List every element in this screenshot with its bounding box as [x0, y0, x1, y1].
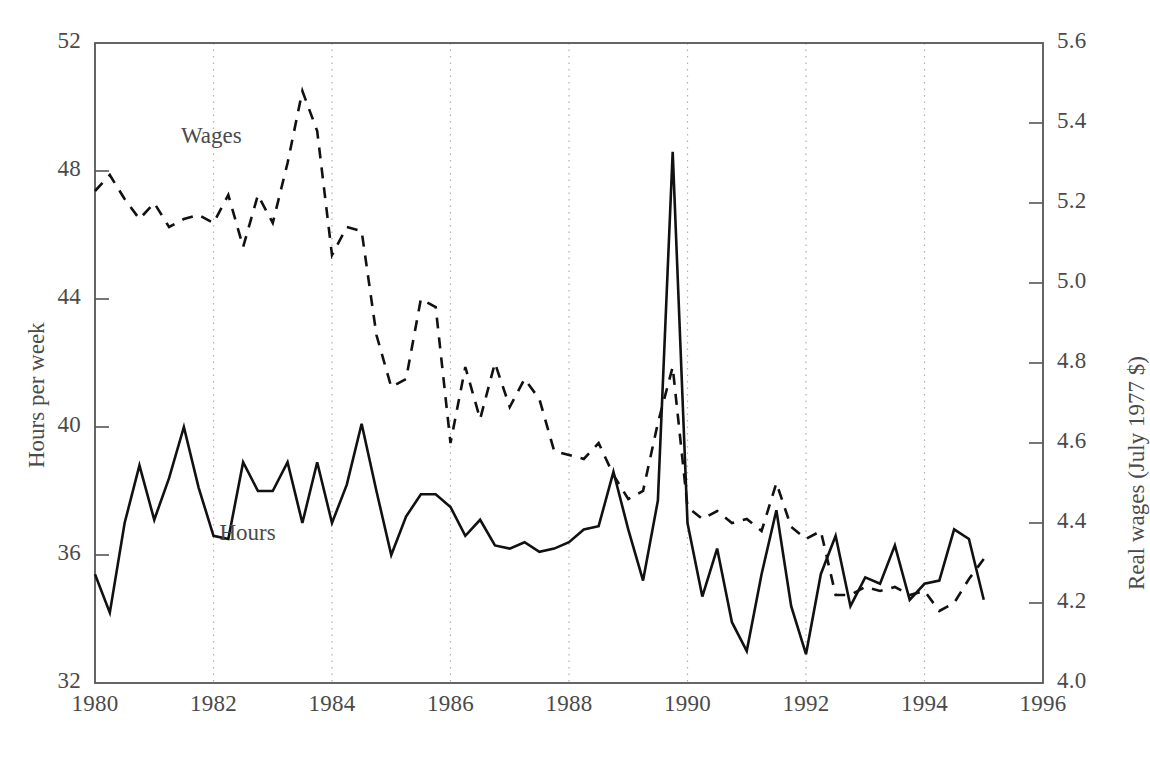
y-axis-title-right: Real wages (July 1977 $) [1124, 356, 1150, 590]
y-axis-tick-label-left: 36 [57, 540, 81, 566]
y-axis-tick-label-right: 5.6 [1057, 28, 1087, 54]
y-axis-tick-label-left: 40 [57, 412, 81, 438]
series-annotation-wages: Wages [181, 123, 242, 149]
y-axis-tick-label-left: 48 [57, 156, 81, 182]
x-axis-tick-label: 1996 [1012, 691, 1074, 717]
y-axis-tick-label-right: 4.4 [1057, 508, 1087, 534]
series-annotation-hours: Hours [219, 520, 275, 546]
x-axis-tick-label: 1980 [64, 691, 126, 717]
y-axis-tick-label-right: 5.4 [1057, 108, 1087, 134]
x-axis-tick-label: 1994 [894, 691, 956, 717]
y-axis-title-left: Hours per week [24, 322, 50, 468]
y-axis-tick-label-right: 4.6 [1057, 428, 1087, 454]
x-axis-tick-label: 1982 [183, 691, 245, 717]
y-axis-tick-label-left: 44 [57, 284, 81, 310]
x-axis-tick-label: 1984 [301, 691, 363, 717]
y-axis-tick-label-right: 5.0 [1057, 268, 1087, 294]
y-axis-tick-label-right: 4.8 [1057, 348, 1087, 374]
y-axis-tick-label-right: 5.2 [1057, 188, 1087, 214]
x-axis-tick-label: 1992 [775, 691, 837, 717]
chart-figure: 3236404448524.04.24.44.64.85.05.25.45.61… [0, 0, 1150, 760]
x-axis-tick-label: 1990 [657, 691, 719, 717]
line-chart-plot [0, 0, 1150, 760]
x-axis-tick-label: 1986 [420, 691, 482, 717]
y-axis-tick-label-right: 4.2 [1057, 588, 1087, 614]
x-axis-tick-label: 1988 [538, 691, 600, 717]
y-axis-tick-label-left: 52 [57, 28, 81, 54]
